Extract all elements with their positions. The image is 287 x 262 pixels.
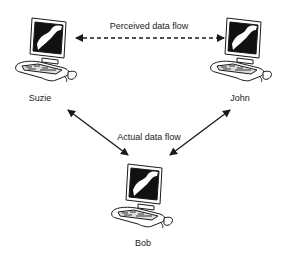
desktop-computer-icon <box>207 14 277 86</box>
suzie-computer-node <box>12 14 82 86</box>
node-label-bob: Bob <box>135 238 151 248</box>
perceived-flow-label: Perceived data flow <box>110 21 189 31</box>
desktop-computer-icon <box>108 160 178 232</box>
node-label-suzie: Suzie <box>29 93 52 103</box>
bob-computer-node <box>108 160 178 232</box>
network-data-flow-diagram: Suzie John <box>0 0 287 262</box>
node-label-john: John <box>230 93 250 103</box>
desktop-computer-icon <box>12 14 82 86</box>
john-computer-node <box>207 14 277 86</box>
actual-flow-label: Actual data flow <box>117 132 181 142</box>
